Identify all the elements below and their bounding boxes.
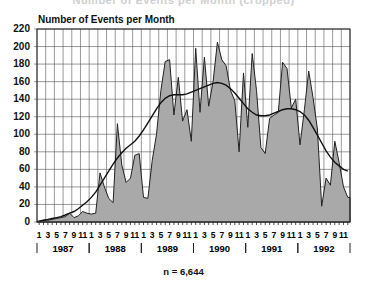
- x-month-label: 7: [272, 230, 277, 240]
- x-month-label: 11: [182, 230, 191, 240]
- x-month-label: 7: [63, 230, 68, 240]
- x-month-label: 1: [298, 230, 303, 240]
- x-month-label: 9: [228, 230, 233, 240]
- x-month-label: 5: [211, 230, 216, 240]
- x-month-label: 5: [54, 230, 59, 240]
- x-month-label: 11: [339, 230, 348, 240]
- x-month-label: 9: [332, 230, 337, 240]
- x-month-label: 1: [141, 230, 146, 240]
- x-month-label: 3: [98, 230, 103, 240]
- x-month-label: 7: [219, 230, 224, 240]
- x-month-label: 5: [159, 230, 164, 240]
- x-year-label: 1992: [313, 243, 334, 254]
- x-month-label: 3: [202, 230, 207, 240]
- x-year-label: 1991: [261, 243, 283, 254]
- x-month-label: 1: [37, 230, 42, 240]
- x-month-label: 7: [167, 230, 172, 240]
- x-month-label: 11: [130, 230, 139, 240]
- x-month-label: 3: [254, 230, 259, 240]
- x-year-label: 1987: [53, 243, 74, 254]
- x-month-label: 5: [106, 230, 111, 240]
- sample-size-annotation: n = 6,644: [0, 266, 367, 277]
- x-month-label: 9: [280, 230, 285, 240]
- x-month-label: 1: [89, 230, 94, 240]
- x-month-label: 1: [245, 230, 250, 240]
- x-month-label: 1: [193, 230, 198, 240]
- area-chart: 1357911135791113579111357911135791113579…: [0, 0, 367, 284]
- x-month-label: 3: [306, 230, 311, 240]
- x-month-label: 7: [115, 230, 120, 240]
- x-year-label: 1989: [157, 243, 178, 254]
- x-axis: 1357911135791113579111357911135791113579…: [37, 222, 350, 254]
- x-year-label: 1988: [105, 243, 126, 254]
- x-month-label: 3: [46, 230, 51, 240]
- x-month-label: 11: [235, 230, 244, 240]
- x-year-label: 1990: [209, 243, 230, 254]
- x-month-label: 3: [150, 230, 155, 240]
- x-month-label: 9: [72, 230, 77, 240]
- x-month-label: 5: [263, 230, 268, 240]
- x-month-label: 11: [287, 230, 296, 240]
- x-month-label: 5: [315, 230, 320, 240]
- x-month-label: 11: [78, 230, 87, 240]
- x-month-label: 9: [124, 230, 129, 240]
- x-month-label: 7: [324, 230, 329, 240]
- x-month-label: 9: [176, 230, 181, 240]
